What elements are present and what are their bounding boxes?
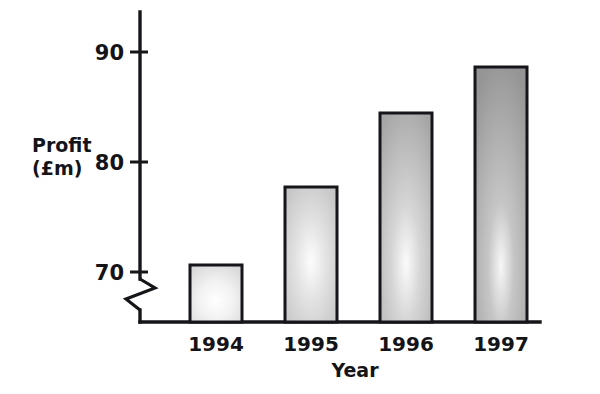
- y-tick-label-90: 90: [95, 41, 124, 65]
- x-tick-label-1996: 1996: [378, 332, 434, 356]
- y-axis-title-line2: (£m): [32, 157, 82, 179]
- y-tick-label-80: 80: [95, 151, 124, 175]
- bar-1996: [380, 113, 432, 322]
- x-axis-title: Year: [330, 359, 379, 381]
- bar-1997: [475, 67, 527, 322]
- bar-chart-figure: 90 80 70 Profit (£m) 1994 1995 1996 1997…: [0, 0, 600, 394]
- x-tick-label-1995: 1995: [283, 332, 339, 356]
- x-tick-label-1994: 1994: [188, 332, 244, 356]
- chart-canvas: 90 80 70 Profit (£m) 1994 1995 1996 1997…: [0, 0, 600, 394]
- axis-break-zigzag: [126, 279, 155, 310]
- bar-1994: [190, 265, 242, 322]
- x-tick-label-1997: 1997: [473, 332, 529, 356]
- y-tick-label-70: 70: [95, 261, 124, 285]
- y-axis-title-line1: Profit: [32, 134, 92, 156]
- bar-1995: [285, 187, 337, 322]
